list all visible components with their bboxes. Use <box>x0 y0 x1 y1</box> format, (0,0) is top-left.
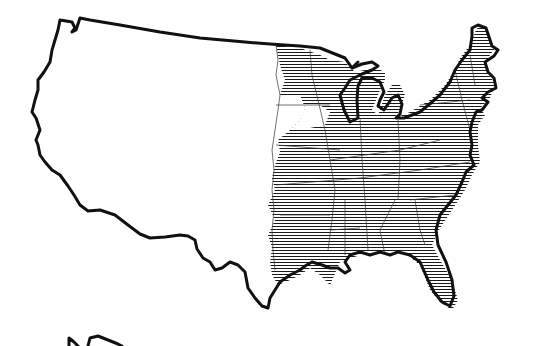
us-map <box>0 0 546 346</box>
partial-map-fragment <box>69 336 122 346</box>
map-figure <box>0 0 546 346</box>
shaded-region-hatching <box>260 0 546 346</box>
